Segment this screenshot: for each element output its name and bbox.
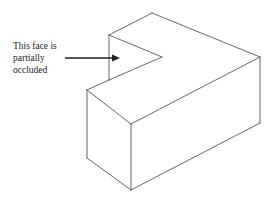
annotation-line-2: partially	[13, 52, 57, 64]
edge-front-top-left	[87, 80, 109, 90]
edge-bottom-right	[131, 123, 260, 190]
pointer-arrow	[65, 55, 120, 62]
l-block-figure	[0, 0, 271, 199]
annotation-line-1: This face is	[13, 40, 57, 52]
edge-front-top-diagonal	[87, 90, 131, 124]
edge-bottom-left	[87, 158, 131, 190]
edge-top-back-right	[152, 13, 260, 57]
arrowhead-icon	[112, 55, 120, 62]
edge-notch-upper	[109, 35, 162, 57]
edge-top-back-left	[109, 13, 152, 35]
diagram-canvas: This face is partially occluded	[0, 0, 271, 199]
edge-front-top-right	[131, 57, 260, 124]
edge-notch-lower	[109, 57, 162, 80]
annotation-line-3: occluded	[13, 64, 57, 76]
annotation-label: This face is partially occluded	[13, 40, 57, 76]
